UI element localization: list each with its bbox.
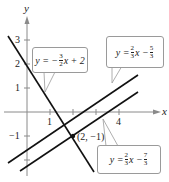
y-tick-label-1: 1 bbox=[15, 82, 20, 93]
y-axis-label: y bbox=[23, 2, 29, 14]
y-tick-label-3: 3 bbox=[15, 34, 20, 45]
callout-line1-post: x + 2 bbox=[64, 55, 85, 66]
x-tick-label-1: 1 bbox=[47, 116, 52, 127]
y-tick-label-2: 2 bbox=[15, 58, 20, 69]
callout-pointer-line1 bbox=[44, 72, 55, 92]
callout-line2: y = 2 3 x − 5 3 bbox=[106, 36, 164, 68]
callout-line1-pre: y = − bbox=[35, 55, 58, 66]
denominator: 3 bbox=[125, 160, 129, 167]
fraction: 5 3 bbox=[150, 45, 154, 60]
fraction: 3 2 bbox=[59, 53, 63, 68]
callout-line2-mid: x − bbox=[135, 47, 149, 58]
y-tick-label-neg1: −1 bbox=[9, 130, 20, 141]
denominator: 3 bbox=[150, 53, 154, 60]
y-axis-arrow-icon bbox=[25, 16, 30, 24]
callout-line2-pre: y = bbox=[116, 47, 130, 58]
callout-pointer-line2 bbox=[112, 66, 122, 83]
x-axis-arrow-icon bbox=[153, 110, 161, 115]
x-tick-label-4: 4 bbox=[116, 116, 121, 127]
fraction: 2 3 bbox=[125, 152, 129, 167]
denominator: 3 bbox=[131, 53, 135, 60]
callout-line3-mid: x − bbox=[129, 154, 143, 165]
fraction: 7 3 bbox=[144, 152, 148, 167]
denominator: 3 bbox=[144, 160, 148, 167]
intersection-label: (2, −1) bbox=[77, 131, 104, 143]
x-axis-label: x bbox=[161, 105, 167, 117]
callout-line3-pre: y = bbox=[110, 154, 124, 165]
intersection-point bbox=[71, 134, 75, 138]
callout-line1: y = − 3 2 x + 2 bbox=[32, 47, 88, 73]
fraction: 2 3 bbox=[131, 45, 135, 60]
denominator: 2 bbox=[59, 61, 63, 68]
callout-line3: y = 2 3 x − 7 3 bbox=[97, 145, 161, 174]
